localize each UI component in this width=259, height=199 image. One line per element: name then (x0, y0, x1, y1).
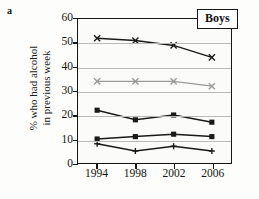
y-tick-label: 40 (51, 61, 73, 73)
x-tick-label: 1998 (115, 168, 155, 180)
series-series-1 (94, 35, 215, 60)
x-axis-tick-labels: 1994199820022006 (77, 168, 232, 186)
y-tick-label: 50 (51, 36, 73, 48)
y-tick-label: 30 (51, 85, 73, 97)
legend-boys: Boys (197, 9, 238, 29)
x-tick-mark (135, 164, 136, 169)
gridline (78, 116, 231, 117)
x-tick-mark (174, 164, 175, 169)
y-tick-mark (73, 18, 78, 19)
series-line (97, 144, 212, 151)
data-point-square (95, 108, 100, 113)
series-series-2 (94, 78, 215, 89)
gridline (78, 68, 231, 69)
figure-panel: a % who had alcohol in previous week 010… (0, 0, 259, 199)
x-tick-label: 2002 (154, 168, 194, 180)
data-point-square (209, 134, 214, 139)
series-line (97, 134, 212, 139)
y-tick-label: 10 (51, 134, 73, 146)
y-axis-tick-labels: 0102030405060 (47, 18, 73, 164)
panel-letter: a (7, 6, 12, 16)
series-line (97, 38, 212, 57)
data-point-square (171, 132, 176, 137)
series-series-5 (94, 141, 215, 154)
y-axis-title-line1: % who had alcohol (27, 46, 40, 131)
gridline (78, 141, 231, 142)
y-tick-label: 60 (51, 12, 73, 24)
plot-area (77, 18, 232, 164)
data-point-square (133, 134, 138, 139)
x-tick-label: 1994 (76, 168, 116, 180)
series-line (97, 81, 212, 86)
y-tick-label: 20 (51, 109, 73, 121)
gridline (78, 43, 231, 44)
y-tick-mark (73, 115, 78, 116)
data-point-square (209, 120, 214, 125)
y-tick-mark (73, 42, 78, 43)
y-tick-mark (73, 140, 78, 141)
x-tick-mark (96, 164, 97, 169)
data-point-square (133, 117, 138, 122)
x-tick-label: 2006 (193, 168, 233, 180)
y-tick-mark (73, 164, 78, 165)
y-tick-mark (73, 67, 78, 68)
x-tick-mark (213, 164, 214, 169)
y-tick-label: 0 (51, 158, 73, 170)
y-tick-mark (73, 91, 78, 92)
gridline (78, 92, 231, 93)
